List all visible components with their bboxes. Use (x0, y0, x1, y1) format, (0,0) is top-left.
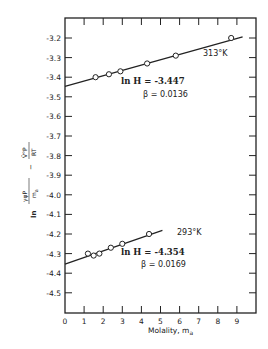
lnH-313: ln H = -3.447 (121, 76, 185, 86)
y-tick-label: -3.3 (46, 54, 61, 63)
y-tick-label: -4.1 (46, 210, 61, 219)
y-tick-label: -4.3 (46, 250, 61, 259)
data-point (118, 69, 123, 74)
x-tick-label: 7 (196, 317, 201, 326)
x-tick-label: 3 (120, 317, 125, 326)
y-tick-label: -4.2 (46, 230, 61, 239)
y-tick-label: -4.0 (46, 191, 61, 200)
y-tick-label: -4.5 (46, 289, 61, 298)
y-axis-ticks: -3.2-3.3-3.4-3.5-3.6-3.7-3.8-3.9-4.0-4.1… (46, 34, 256, 298)
svg-text:V̄°P: V̄°P (21, 147, 28, 158)
x-tick-label: 9 (235, 317, 240, 326)
x-tick-label: 1 (82, 317, 87, 326)
x-tick-label: 0 (63, 317, 68, 326)
y-tick-label: -3.9 (46, 171, 61, 180)
data-point (97, 251, 102, 256)
chart: 0123456789 -3.2-3.3-3.4-3.5-3.6-3.7-3.8-… (0, 0, 268, 349)
lnH-293: ln H = -4.354 (121, 247, 185, 257)
beta-313: β = 0.0136 (143, 90, 188, 99)
y-tick-label: -4.4 (46, 269, 61, 278)
data-point (106, 72, 111, 77)
data-point (93, 75, 98, 80)
svg-text:RT: RT (30, 148, 37, 156)
y-tick-label: -3.5 (46, 93, 61, 102)
data-point (146, 231, 151, 236)
y-tick-label: -3.2 (46, 34, 61, 43)
x-tick-label: 5 (158, 317, 163, 326)
svg-text:γφP: γφP (21, 190, 29, 202)
x-tick-label: 8 (215, 317, 220, 326)
data-point (173, 53, 178, 58)
data-point (91, 253, 96, 258)
x-tick-label: 6 (177, 317, 182, 326)
x-axis-label: Molality, ma (148, 326, 193, 336)
data-point (120, 241, 125, 246)
x-tick-label: 4 (139, 317, 144, 326)
y-axis-label: ln γφP ma − V̄°P RT (21, 142, 39, 218)
data-point (145, 61, 150, 66)
series-label-293: 293°K (177, 228, 202, 237)
y-tick-label: -3.4 (46, 73, 61, 82)
data-point (229, 35, 234, 40)
x-axis-ticks: 0123456789 (63, 18, 240, 326)
beta-293: β = 0.0169 (141, 260, 186, 269)
x-tick-label: 2 (101, 317, 106, 326)
svg-text:ln: ln (30, 211, 38, 218)
y-tick-label: -3.8 (46, 152, 61, 161)
data-point (85, 251, 90, 256)
data-point (108, 245, 113, 250)
y-tick-label: -3.7 (46, 132, 61, 141)
data-series (65, 35, 243, 264)
series-label-313: 313°K (203, 49, 228, 58)
svg-text:−: − (27, 164, 35, 170)
svg-text:ma: ma (30, 189, 39, 198)
y-tick-label: -3.6 (46, 112, 61, 121)
